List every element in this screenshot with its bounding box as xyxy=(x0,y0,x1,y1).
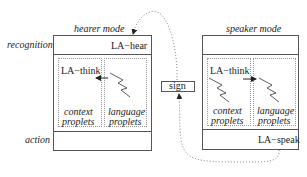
speaker-context-zigzag-icon xyxy=(209,78,229,102)
sign-to-hearer-arrow xyxy=(133,11,177,80)
speaker-language-zigzag-icon xyxy=(259,78,279,102)
hearer-zigzag-icon xyxy=(110,73,130,97)
diagram-connectors xyxy=(0,0,307,177)
speaker-to-sign-arrow xyxy=(179,94,279,162)
